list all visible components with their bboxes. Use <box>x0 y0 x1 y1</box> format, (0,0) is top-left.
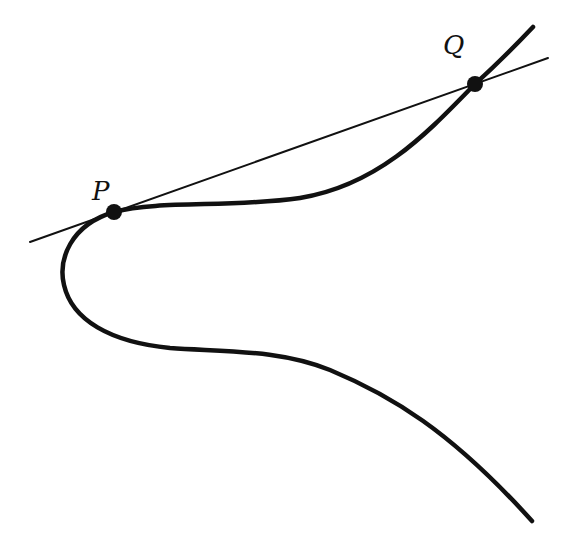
point-p <box>106 204 122 220</box>
elliptic-curve-diagram: P Q <box>0 0 563 542</box>
label-p: P <box>91 176 110 206</box>
point-q <box>467 76 483 92</box>
elliptic-curve <box>63 27 533 521</box>
label-q: Q <box>443 30 464 60</box>
